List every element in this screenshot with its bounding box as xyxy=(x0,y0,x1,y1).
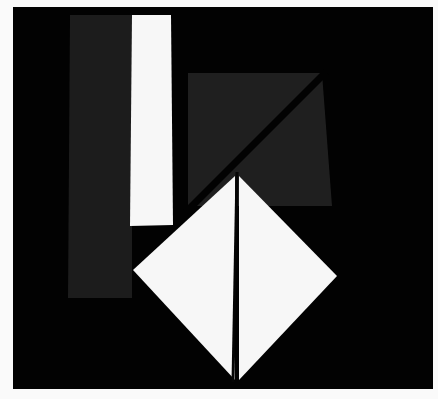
white-strip xyxy=(130,15,173,226)
dark-gray-strip xyxy=(68,15,132,298)
geometric-composition xyxy=(0,0,438,399)
